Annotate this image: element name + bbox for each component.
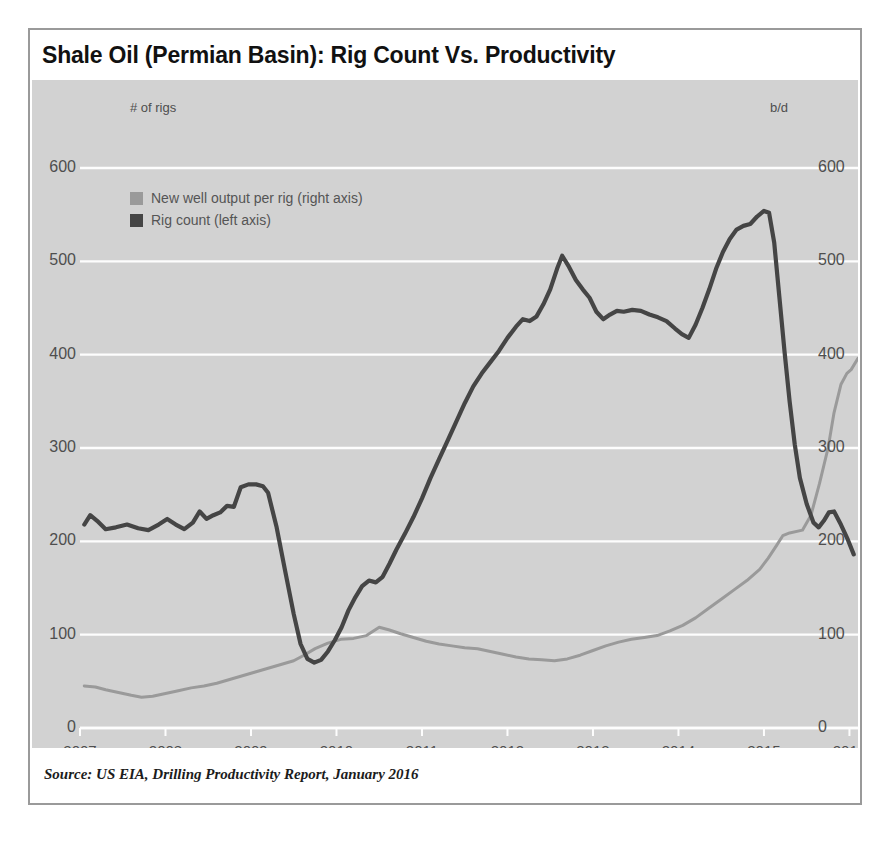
series-group <box>84 211 858 697</box>
yaxis-right-tick-label: 400 <box>818 345 858 363</box>
yaxis-right-tick-label: 500 <box>818 251 858 269</box>
chart-svg <box>32 80 858 750</box>
legend-label-rig-count: Rig count (left axis) <box>151 210 271 230</box>
source-note: Source: US EIA, Drilling Productivity Re… <box>32 766 419 783</box>
source-bar: Source: US EIA, Drilling Productivity Re… <box>32 748 858 801</box>
plot-area: 0100200300400500600 0100200300400500600 … <box>32 80 858 750</box>
right-axis-unit-label: b/d <box>770 100 788 115</box>
legend-swatch-rig-count <box>130 214 143 227</box>
yaxis-right-tick-label: 300 <box>818 438 858 456</box>
yaxis-right-tick-label: 600 <box>818 158 858 176</box>
yaxis-tick-label: 100 <box>32 625 76 643</box>
legend-item-rig-count[interactable]: Rig count (left axis) <box>130 210 363 230</box>
title-bar: Shale Oil (Permian Basin): Rig Count Vs.… <box>30 30 860 80</box>
left-axis-unit-label: # of rigs <box>130 100 176 115</box>
chart-legend: New well output per rig (right axis) Rig… <box>130 188 363 232</box>
legend-label-productivity: New well output per rig (right axis) <box>151 188 363 208</box>
xaxis-ticks-group <box>80 728 858 736</box>
yaxis-tick-label: 200 <box>32 531 76 549</box>
yaxis-right-tick-label: 0 <box>818 718 858 736</box>
yaxis-tick-label: 600 <box>32 158 76 176</box>
yaxis-tick-label: 500 <box>32 251 76 269</box>
yaxis-right-tick-label: 200 <box>818 531 858 549</box>
yaxis-tick-label: 300 <box>32 438 76 456</box>
yaxis-right-tick-label: 100 <box>818 625 858 643</box>
yaxis-tick-label: 0 <box>32 718 76 736</box>
rig-count-line <box>84 211 853 663</box>
gridlines-group <box>80 168 858 728</box>
chart-figure: Shale Oil (Permian Basin): Rig Count Vs.… <box>28 28 862 805</box>
legend-item-productivity[interactable]: New well output per rig (right axis) <box>130 188 363 208</box>
legend-swatch-productivity <box>130 192 143 205</box>
productivity-line <box>84 358 858 697</box>
yaxis-tick-label: 400 <box>32 345 76 363</box>
page-title: Shale Oil (Permian Basin): Rig Count Vs.… <box>30 42 615 69</box>
